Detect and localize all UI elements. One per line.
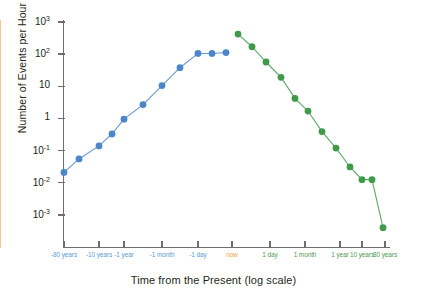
data-point <box>109 131 116 138</box>
series-future <box>235 31 387 231</box>
data-point <box>177 64 184 71</box>
data-point <box>76 156 83 163</box>
y-axis-title: Number of Events per Hour <box>16 0 28 148</box>
data-point <box>249 43 256 50</box>
data-point <box>223 49 230 56</box>
data-point <box>359 176 366 183</box>
data-point <box>121 116 128 123</box>
data-point <box>209 50 216 57</box>
data-point <box>96 143 103 150</box>
data-point <box>333 145 340 152</box>
data-point <box>369 176 376 183</box>
data-series-layer <box>0 0 427 298</box>
series-past <box>61 49 230 176</box>
x-axis-title: Time from the Present (log scale) <box>0 274 427 286</box>
data-point <box>292 95 299 102</box>
data-point <box>159 82 166 89</box>
data-point <box>61 169 68 176</box>
series-line <box>238 34 383 228</box>
plot-area: 10310210110-110-210-3 -80 years-10 years… <box>0 0 427 298</box>
data-point <box>195 50 202 57</box>
series-line <box>64 53 226 173</box>
data-point <box>380 224 387 231</box>
data-point <box>278 74 285 81</box>
data-point <box>140 101 147 108</box>
data-point <box>319 128 326 135</box>
data-point <box>235 31 242 38</box>
chart-figure: 10310210110-110-210-3 -80 years-10 years… <box>0 0 427 298</box>
data-point <box>263 59 270 66</box>
data-point <box>305 108 312 115</box>
data-point <box>347 164 354 171</box>
